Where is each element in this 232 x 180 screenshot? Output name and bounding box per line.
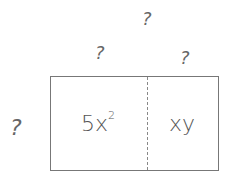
dashed-divider: [147, 77, 148, 170]
total-width-label: ?: [142, 8, 152, 29]
right-cell-term: xy: [169, 111, 195, 136]
left-cell-term: 5x2: [81, 111, 115, 136]
left-cell-base: 5x: [81, 111, 108, 136]
right-width-label: ?: [180, 47, 190, 68]
left-cell-exponent: 2: [108, 109, 115, 122]
height-label: ?: [10, 115, 22, 140]
right-cell-base: xy: [169, 111, 195, 136]
left-width-label: ?: [95, 42, 105, 63]
area-rectangle: 5x2 xy: [50, 76, 219, 171]
